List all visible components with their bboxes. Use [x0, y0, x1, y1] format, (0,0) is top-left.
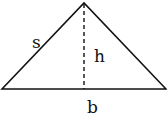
- triangle-diagram: s h b: [0, 0, 167, 120]
- base-label: b: [87, 97, 98, 117]
- height-label: h: [94, 46, 105, 66]
- side-label: s: [32, 32, 41, 52]
